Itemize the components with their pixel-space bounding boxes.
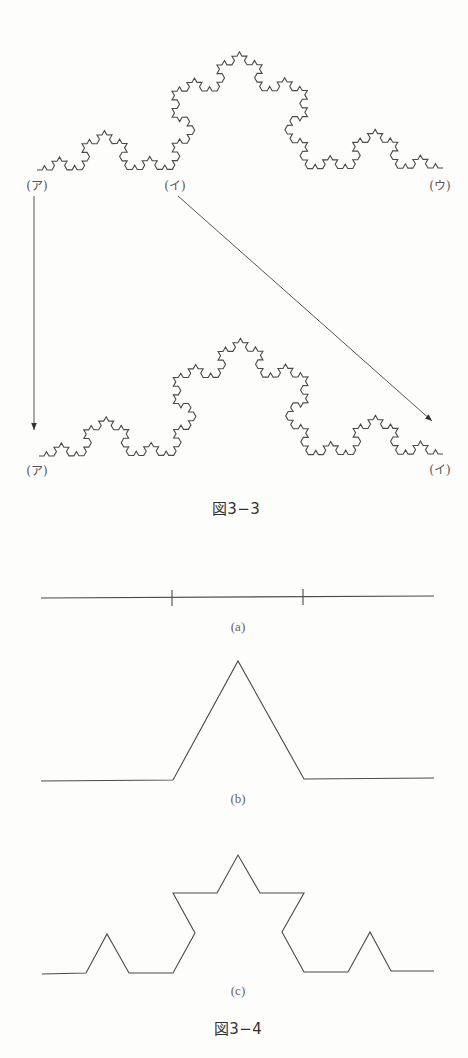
- koch-curve-full: [37, 52, 443, 170]
- caption-figure-3-4: 図3−4: [214, 1017, 263, 1038]
- caption-figure-3-3: 図3−3: [212, 497, 261, 518]
- label-bottom-a: (ア): [26, 461, 47, 478]
- label-bottom-i: (イ): [429, 460, 450, 477]
- label-panel-c: (c): [231, 983, 245, 999]
- panel-a-segment: [41, 596, 434, 598]
- panel-b-triangle-bump: [41, 661, 434, 781]
- figure-3-4: [41, 589, 434, 974]
- label-top-u: (ウ): [429, 176, 450, 193]
- diagram-canvas: [0, 0, 468, 1058]
- label-panel-b: (b): [230, 791, 245, 807]
- label-panel-a: (a): [231, 619, 245, 635]
- page: (ア) (イ) (ウ) (ア) (イ) 図3−3 (a) (b) (c) 図3−…: [0, 0, 468, 1058]
- arrow-i-to-i: [178, 196, 432, 421]
- label-top-i: (イ): [164, 176, 185, 193]
- panel-c-second-iteration: [42, 855, 434, 974]
- label-top-a: (ア): [26, 176, 47, 193]
- koch-curve-magnified: [39, 338, 443, 456]
- figure-3-3: [34, 52, 443, 456]
